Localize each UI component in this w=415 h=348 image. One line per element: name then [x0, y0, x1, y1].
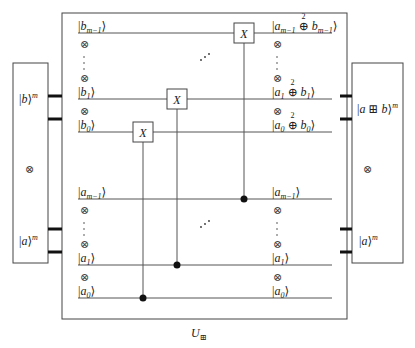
- left-tensor-a-low: ⊗: [80, 271, 89, 283]
- circuit-diagram: XXX |bm−1⟩|b1⟩|b0⟩|am−1⟩|a1⟩|a0⟩ |am−1 ⊕…: [0, 0, 415, 348]
- x-gate-label: X: [239, 27, 248, 41]
- right-tensor-a-low: ⊗: [273, 271, 282, 283]
- left-tensor-b-top: ⊗: [80, 38, 89, 50]
- right-tensor-b-low: ⊗: [273, 105, 282, 117]
- input-label-b_1: |b1⟩: [78, 85, 95, 101]
- x-gate-label: X: [138, 126, 147, 140]
- unitary-caption: U⊞: [191, 326, 207, 342]
- input-label-b_0: |b0⟩: [78, 118, 95, 134]
- input-label-a_0: |a0⟩: [78, 284, 95, 300]
- tensor-symbols: ⊗⊗⊗⊗⊗⊗⊗⊗⊗⊗⊗⊗: [80, 38, 282, 283]
- input-labels: |bm−1⟩|b1⟩|b0⟩|am−1⟩|a1⟩|a0⟩: [78, 19, 106, 300]
- op-superscript: 2: [302, 12, 306, 21]
- input-label-a_1: |a1⟩: [78, 251, 95, 267]
- output-label-b_m-1: |am−1 ⊕ bm−1⟩: [272, 19, 338, 35]
- left-bus-connectors: [48, 96, 62, 252]
- left-tensor-a-mid: ⊗: [80, 238, 89, 250]
- right-vdots-a: [276, 222, 278, 236]
- right-tensor-b-top: ⊗: [273, 38, 282, 50]
- right-tensor-a-top: ⊗: [273, 204, 282, 216]
- left-tensor: ⊗: [25, 163, 34, 175]
- right-vdots-b: [276, 56, 278, 70]
- output-label-a_1: |a1⟩: [272, 251, 289, 267]
- left-tensor-b-low: ⊗: [80, 105, 89, 117]
- right-tensor-b-mid: ⊗: [273, 72, 282, 84]
- left-bottom-label: |a⟩m: [19, 233, 38, 248]
- op-superscript: 2: [290, 111, 294, 120]
- ddots-top: [200, 53, 210, 61]
- output-label-b_1: |a1 ⊕ b1⟩: [272, 85, 315, 101]
- x-gate-label: X: [172, 93, 181, 107]
- right-top-label: |a ⊞ b⟩m: [357, 101, 398, 116]
- right-bus-connectors: [340, 96, 352, 252]
- ddots-bottom: [200, 220, 210, 228]
- input-label-a_m-1: |am−1⟩: [78, 185, 106, 201]
- control-dot-a_1: [174, 262, 181, 269]
- left-tensor-a-top: ⊗: [80, 204, 89, 216]
- output-label-b_0: |a0 ⊕ b0⟩: [272, 118, 315, 134]
- control-lines: [143, 33, 244, 298]
- output-labels: |am−1 ⊕ bm−1⟩2|a1 ⊕ b1⟩2|a0 ⊕ b0⟩2|am−1⟩…: [272, 12, 338, 300]
- control-dot-a_0: [140, 295, 147, 302]
- output-label-a_0: |a0⟩: [272, 284, 289, 300]
- qubit-wires: [78, 33, 332, 298]
- output-label-a_m-1: |am−1⟩: [272, 185, 300, 201]
- op-superscript: 2: [290, 78, 294, 87]
- input-label-b_m-1: |bm−1⟩: [78, 19, 106, 35]
- right-tensor: ⊗: [363, 163, 372, 175]
- left-top-label: |b⟩m: [19, 91, 38, 106]
- gates: XXX: [133, 23, 254, 302]
- left-vdots-b: [83, 56, 85, 70]
- right-bottom-label: |a⟩m: [359, 233, 378, 248]
- unitary-box: [62, 13, 347, 319]
- right-tensor-a-mid: ⊗: [273, 238, 282, 250]
- left-vdots-a: [83, 222, 85, 236]
- control-dot-a_m-1: [241, 196, 248, 203]
- left-tensor-b-mid: ⊗: [80, 72, 89, 84]
